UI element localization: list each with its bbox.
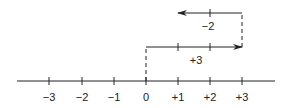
- tick-label: −3: [43, 91, 56, 103]
- tick-label: −1: [108, 91, 121, 103]
- minus-two-label: −2: [202, 20, 215, 32]
- plus-three-label: +3: [190, 54, 203, 66]
- tick-label: −2: [76, 91, 89, 103]
- tick-label: +3: [236, 91, 249, 103]
- tick-label: 0: [143, 91, 149, 103]
- tick-label: +2: [204, 91, 217, 103]
- tick-label: +1: [172, 91, 185, 103]
